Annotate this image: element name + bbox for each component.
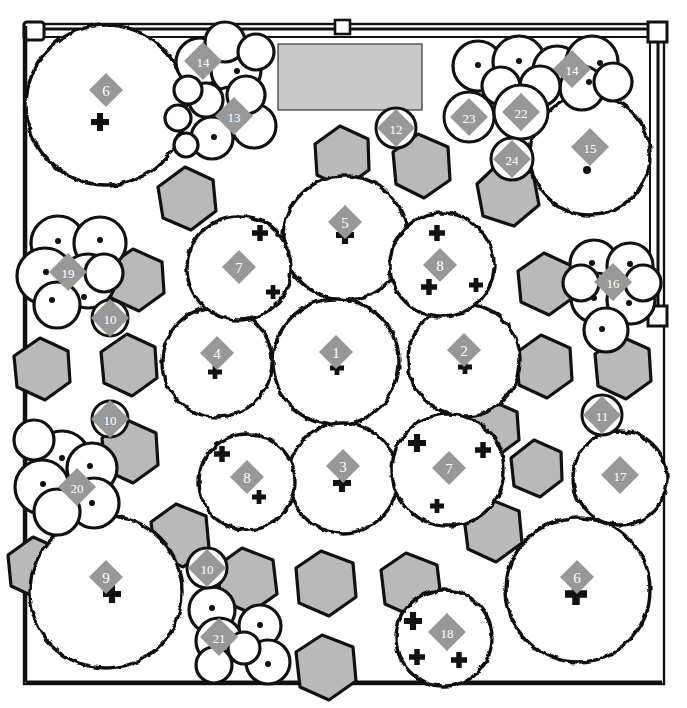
stem-dot-marker bbox=[265, 661, 271, 667]
label-number: 16 bbox=[607, 276, 621, 291]
label-number: 22 bbox=[515, 106, 528, 121]
stem-dot-marker bbox=[209, 605, 215, 611]
label-number: 10 bbox=[104, 312, 117, 327]
canopy-map-figure: 6141312142322241557819161041211101720837… bbox=[0, 0, 687, 708]
stem-dot-marker bbox=[59, 455, 65, 461]
stem-dot-marker bbox=[81, 294, 87, 300]
stem-dot-marker bbox=[55, 238, 61, 244]
label-number: 7 bbox=[235, 260, 243, 276]
stem-dot-marker bbox=[89, 500, 95, 506]
stem-dot-marker bbox=[626, 300, 632, 306]
label-number: 17 bbox=[614, 469, 628, 484]
stem-dot-marker bbox=[40, 481, 46, 487]
stem-dot-marker bbox=[49, 297, 55, 303]
stem-dot-marker bbox=[599, 326, 605, 332]
shrub-patch bbox=[296, 635, 356, 700]
stem-dot-marker bbox=[589, 260, 595, 266]
label-number: 19 bbox=[62, 266, 75, 281]
stem-dot-marker bbox=[87, 463, 93, 469]
stem-dot-marker bbox=[211, 134, 217, 140]
label-number: 2 bbox=[460, 343, 468, 359]
stem-dot-marker bbox=[583, 166, 591, 174]
label-number: 4 bbox=[213, 346, 221, 362]
stem-dot-marker bbox=[586, 79, 592, 85]
stem-dot-marker bbox=[516, 58, 522, 64]
label-number: 21 bbox=[213, 631, 226, 646]
label-number: 8 bbox=[243, 470, 251, 486]
stem-dot-marker bbox=[257, 622, 263, 628]
stem-dot-marker bbox=[475, 62, 481, 68]
label-number: 11 bbox=[596, 409, 609, 424]
label-number: 23 bbox=[463, 111, 476, 126]
label-number: 14 bbox=[566, 63, 580, 78]
label-number: 6 bbox=[573, 570, 581, 586]
label-number: 5 bbox=[341, 215, 349, 231]
label-number: 18 bbox=[441, 626, 454, 641]
corner-post-top-right bbox=[648, 22, 667, 42]
stem-dot-marker bbox=[591, 295, 597, 301]
label-number: 14 bbox=[197, 55, 211, 70]
label-number: 1 bbox=[332, 345, 340, 361]
stem-dot-marker bbox=[43, 269, 49, 275]
canopy-map-svg: 6141312142322241557819161041211101720837… bbox=[0, 0, 687, 708]
stem-dot-marker bbox=[234, 68, 240, 74]
label-number: 8 bbox=[436, 258, 444, 274]
label-number: 9 bbox=[102, 570, 110, 586]
label-number: 7 bbox=[445, 461, 453, 477]
post-top-center bbox=[335, 20, 350, 34]
building-footprint bbox=[278, 44, 422, 110]
label-number: 10 bbox=[104, 413, 117, 428]
label-number: 20 bbox=[71, 481, 84, 496]
stem-dot-marker bbox=[627, 261, 633, 267]
label-number: 6 bbox=[102, 83, 110, 99]
label-number: 10 bbox=[201, 562, 214, 577]
stem-dot-marker bbox=[97, 237, 103, 243]
label-number: 24 bbox=[506, 153, 520, 168]
label-number: 3 bbox=[339, 459, 347, 475]
stem-dot-marker bbox=[597, 60, 603, 66]
label-number: 13 bbox=[228, 110, 241, 125]
label-number: 15 bbox=[584, 141, 597, 156]
label-number: 12 bbox=[390, 122, 403, 137]
